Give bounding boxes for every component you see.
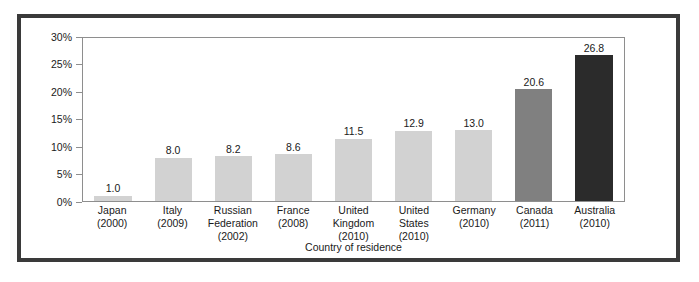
bar-slot: 8.0 [143, 38, 203, 201]
x-axis-category: Russian Federation(2002) [203, 204, 263, 242]
bar-value-label: 13.0 [463, 118, 483, 129]
bar[interactable]: 26.8 [575, 55, 612, 201]
bar[interactable]: 11.5 [335, 139, 372, 201]
x-axis-category-year: (2009) [143, 217, 201, 230]
x-axis-category-year: (2010) [566, 217, 624, 230]
x-axis-category-name: Italy [143, 204, 201, 217]
x-axis-category-year: (2011) [505, 217, 563, 230]
x-axis-category-name: Australia [566, 204, 624, 217]
bar-slot: 12.9 [384, 38, 444, 201]
x-axis-category-name: Russian Federation [204, 204, 262, 230]
x-axis-category-year: (2002) [204, 230, 262, 243]
y-axis-tick: 0% [57, 196, 82, 208]
y-axis-tick: 30% [51, 31, 82, 43]
x-axis-category-year: (2008) [264, 217, 322, 230]
plot-area: 1.08.08.28.611.512.913.020.626.8 [82, 37, 625, 202]
y-axis: 30%25%20%15%10%5%0% [21, 37, 82, 202]
bar-slot: 8.6 [263, 38, 323, 201]
y-axis-tick: 15% [51, 114, 82, 126]
x-axis-category: United Kingdom(2010) [323, 204, 383, 242]
bar-slot: 8.2 [203, 38, 263, 201]
x-axis-category: Germany(2010) [444, 204, 504, 230]
bar-slot: 1.0 [83, 38, 143, 201]
y-axis-tick-label: 25% [51, 59, 72, 70]
bar-value-label: 12.9 [403, 118, 423, 129]
bar-value-label: 11.5 [344, 126, 364, 137]
x-axis-category-name: Canada [505, 204, 563, 217]
x-axis-category-labels: Japan(2000)Italy(2009)Russian Federation… [82, 204, 625, 242]
bar-slot: 20.6 [504, 38, 564, 201]
x-axis-category: Canada(2011) [504, 204, 564, 230]
x-axis-category: Italy(2009) [142, 204, 202, 230]
bar[interactable]: 1.0 [94, 196, 131, 201]
y-axis-tick-label: 5% [57, 169, 72, 180]
bar[interactable]: 13.0 [455, 130, 492, 201]
bar-value-label: 26.8 [584, 43, 604, 54]
bar-slot: 11.5 [323, 38, 383, 201]
y-axis-tick-label: 30% [51, 32, 72, 43]
x-axis-category-name: United States [385, 204, 443, 230]
bar[interactable]: 8.0 [155, 158, 192, 201]
bar-slot: 13.0 [444, 38, 504, 201]
bars-layer: 1.08.08.28.611.512.913.020.626.8 [83, 38, 624, 201]
bar[interactable]: 8.2 [215, 156, 252, 201]
bar[interactable]: 12.9 [395, 131, 432, 201]
bar-value-label: 8.2 [226, 144, 241, 155]
x-axis-category-year: (2010) [445, 217, 503, 230]
y-axis-tick: 10% [51, 141, 82, 153]
x-axis-title: Country of residence [82, 242, 625, 253]
x-axis-category: United States(2010) [384, 204, 444, 242]
bar-value-label: 1.0 [106, 183, 121, 194]
x-axis-category-name: France [264, 204, 322, 217]
x-axis-category-year: (2000) [83, 217, 141, 230]
bar-chart: 30%25%20%15%10%5%0% 1.08.08.28.611.512.9… [21, 18, 676, 258]
bar-slot: 26.8 [564, 38, 624, 201]
x-axis-category-name: United Kingdom [324, 204, 382, 230]
y-axis-tick-label: 0% [57, 197, 72, 208]
y-axis-tick: 5% [57, 169, 82, 181]
bar[interactable]: 8.6 [275, 154, 312, 201]
x-axis-category: France(2008) [263, 204, 323, 230]
bar-value-label: 8.0 [166, 145, 181, 156]
bar-value-label: 8.6 [286, 142, 301, 153]
figure-frame: 30%25%20%15%10%5%0% 1.08.08.28.611.512.9… [17, 14, 680, 262]
x-axis-category: Japan(2000) [82, 204, 142, 230]
y-axis-tick: 20% [51, 86, 82, 98]
y-axis-tick-label: 15% [51, 114, 72, 125]
x-axis-category: Australia(2010) [565, 204, 625, 230]
y-axis-tick-label: 20% [51, 87, 72, 98]
bar-value-label: 20.6 [524, 77, 544, 88]
y-axis-tick: 25% [51, 59, 82, 71]
x-axis-category-name: Japan [83, 204, 141, 217]
y-axis-tick-label: 10% [51, 142, 72, 153]
x-axis-category-name: Germany [445, 204, 503, 217]
bar[interactable]: 20.6 [515, 89, 552, 201]
